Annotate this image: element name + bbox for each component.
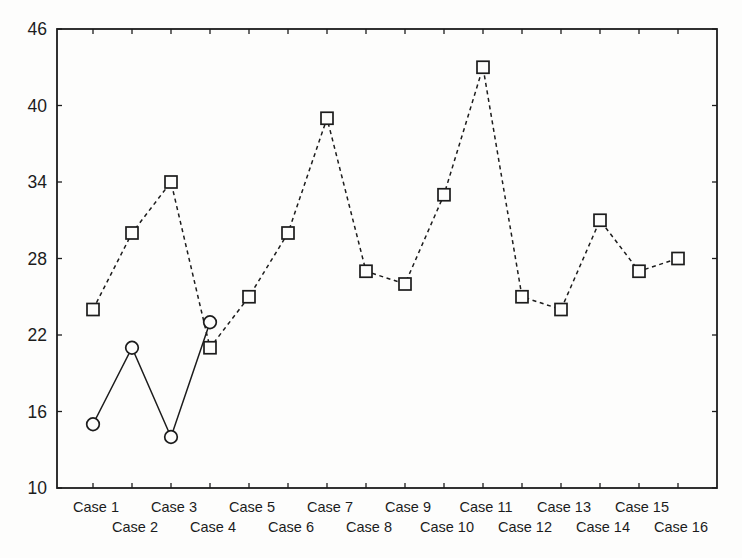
y-tick-label: 46 bbox=[28, 19, 47, 39]
x-tick-label: Case 15 bbox=[615, 499, 669, 515]
data-point-square bbox=[360, 265, 372, 277]
x-tick-label: Case 2 bbox=[112, 519, 158, 535]
x-tick-label: Case 1 bbox=[73, 499, 119, 515]
y-tick-label: 40 bbox=[28, 96, 48, 116]
data-point-square bbox=[282, 227, 294, 239]
y-tick-label: 16 bbox=[28, 402, 47, 422]
square-series-line bbox=[93, 67, 678, 348]
square-series bbox=[87, 61, 684, 354]
data-point-square bbox=[321, 112, 333, 124]
data-point-square bbox=[87, 304, 99, 316]
data-point-square bbox=[399, 278, 411, 290]
data-point-square bbox=[594, 214, 606, 226]
circle-series bbox=[87, 316, 217, 443]
data-point-circle bbox=[165, 431, 178, 444]
x-tick-label: Case 7 bbox=[307, 499, 353, 515]
data-point-square bbox=[165, 176, 177, 188]
data-point-square bbox=[477, 61, 489, 73]
x-tick-label: Case 8 bbox=[346, 519, 392, 535]
data-point-square bbox=[672, 253, 684, 265]
x-tick-label: Case 14 bbox=[576, 519, 630, 535]
data-point-square bbox=[438, 189, 450, 201]
x-tick-label: Case 11 bbox=[460, 499, 513, 515]
data-point-square bbox=[126, 227, 138, 239]
x-tick-label: Case 4 bbox=[190, 519, 236, 535]
x-tick-label: Case 10 bbox=[420, 519, 474, 535]
x-tick-label: Case 6 bbox=[268, 519, 314, 535]
x-tick-label: Case 5 bbox=[229, 499, 275, 515]
x-tick-label: Case 3 bbox=[151, 499, 197, 515]
y-tick-label: 22 bbox=[28, 325, 47, 345]
x-tick-label: Case 13 bbox=[537, 499, 591, 515]
chart-svg: Case 1Case 2Case 3Case 4Case 5Case 6Case… bbox=[0, 0, 742, 558]
data-point-circle bbox=[87, 418, 100, 431]
y-tick-label: 34 bbox=[28, 172, 48, 192]
chart-figure: Case 1Case 2Case 3Case 4Case 5Case 6Case… bbox=[0, 0, 742, 558]
data-point-circle bbox=[204, 316, 217, 329]
y-tick-label: 10 bbox=[28, 478, 48, 498]
data-point-square bbox=[204, 342, 216, 354]
x-tick-label: Case 16 bbox=[654, 519, 708, 535]
data-point-square bbox=[633, 265, 645, 277]
data-point-square bbox=[555, 304, 567, 316]
data-point-square bbox=[243, 291, 255, 303]
plot-frame bbox=[57, 29, 717, 488]
y-tick-label: 28 bbox=[28, 249, 47, 269]
x-tick-label: Case 12 bbox=[498, 519, 552, 535]
x-tick-label: Case 9 bbox=[385, 499, 431, 515]
data-point-square bbox=[516, 291, 528, 303]
x-axis: Case 1Case 2Case 3Case 4Case 5Case 6Case… bbox=[73, 29, 708, 535]
y-axis: 10162228344046 bbox=[28, 19, 717, 498]
data-point-circle bbox=[126, 341, 139, 354]
circle-series-line bbox=[93, 322, 210, 437]
